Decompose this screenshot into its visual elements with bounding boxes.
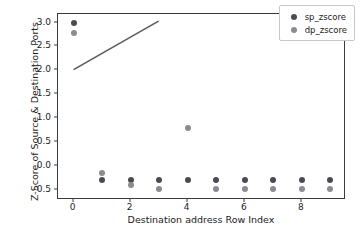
y-tick-mark bbox=[54, 116, 57, 117]
x-tick-label: 0 bbox=[70, 202, 76, 212]
y-tick-mark bbox=[54, 69, 57, 70]
y-tick-label: 2.0 bbox=[0, 64, 51, 74]
y-tick-label: -0.5 bbox=[0, 184, 51, 194]
data-point bbox=[156, 177, 162, 183]
chart-legend: sp_zscore dp_zscore bbox=[279, 5, 355, 41]
x-tick-mark bbox=[129, 199, 130, 202]
data-point bbox=[242, 177, 248, 183]
y-tick-label: 0.5 bbox=[0, 136, 51, 146]
data-point bbox=[71, 30, 77, 36]
y-tick-mark bbox=[54, 188, 57, 189]
legend-item-dp-zscore: dp_zscore bbox=[285, 23, 347, 36]
data-point bbox=[299, 177, 305, 183]
data-point bbox=[299, 186, 305, 192]
data-point bbox=[128, 182, 134, 188]
data-point bbox=[327, 177, 333, 183]
x-tick-label: 4 bbox=[184, 202, 190, 212]
y-tick-label: 3.0 bbox=[0, 17, 51, 27]
x-tick-mark bbox=[300, 199, 301, 202]
data-point bbox=[185, 125, 191, 131]
y-tick-label: 1.5 bbox=[0, 88, 51, 98]
data-point bbox=[99, 170, 105, 176]
y-tick-mark bbox=[54, 21, 57, 22]
data-points-layer bbox=[58, 14, 344, 198]
x-tick-mark bbox=[186, 199, 187, 202]
legend-marker-icon bbox=[291, 27, 297, 33]
x-tick-mark bbox=[72, 199, 73, 202]
data-point bbox=[213, 186, 219, 192]
data-point bbox=[71, 20, 77, 26]
y-tick-mark bbox=[54, 164, 57, 165]
data-point bbox=[185, 177, 191, 183]
data-point bbox=[270, 177, 276, 183]
scatter-chart-figure: -0.50.00.51.01.52.02.53.0 02468 Destinat… bbox=[0, 0, 360, 239]
x-axis-label: Destination address Row Index bbox=[57, 214, 345, 225]
y-tick-label: 0.0 bbox=[0, 160, 51, 170]
data-point bbox=[99, 177, 105, 183]
data-point bbox=[327, 186, 333, 192]
legend-item-sp-zscore: sp_zscore bbox=[285, 10, 347, 23]
legend-marker-icon bbox=[291, 14, 297, 20]
x-tick-label: 6 bbox=[241, 202, 247, 212]
x-tick-label: 2 bbox=[127, 202, 133, 212]
data-point bbox=[156, 186, 162, 192]
y-tick-mark bbox=[54, 93, 57, 94]
data-point bbox=[213, 177, 219, 183]
data-point bbox=[242, 186, 248, 192]
y-tick-mark bbox=[54, 140, 57, 141]
y-tick-label: 2.5 bbox=[0, 40, 51, 50]
x-tick-label: 8 bbox=[298, 202, 304, 212]
y-axis-label: Z-Score of Source & Destination Ports bbox=[29, 22, 40, 202]
x-tick-mark bbox=[243, 199, 244, 202]
y-tick-mark bbox=[54, 45, 57, 46]
y-tick-label: 1.0 bbox=[0, 112, 51, 122]
legend-item-label: dp_zscore bbox=[305, 25, 347, 35]
data-point bbox=[270, 186, 276, 192]
legend-item-label: sp_zscore bbox=[305, 12, 346, 22]
